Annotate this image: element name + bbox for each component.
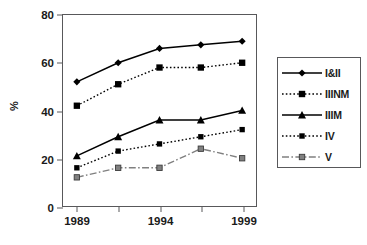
y-tick-label: 0	[15, 202, 63, 214]
legend-label: IIIM	[325, 109, 342, 121]
legend-label: I&II	[325, 67, 341, 79]
data-point-marker	[74, 165, 79, 170]
series-iv	[74, 127, 245, 171]
data-point-marker	[116, 148, 121, 153]
y-tick-mark	[57, 208, 63, 209]
legend-key-icon	[281, 150, 323, 164]
data-point-marker	[198, 64, 204, 70]
legend-key-icon	[281, 129, 323, 143]
x-tick-mark	[244, 206, 245, 212]
series-layer	[63, 15, 256, 206]
data-point-marker	[73, 152, 81, 159]
data-point-marker	[239, 38, 246, 45]
data-point-marker	[198, 134, 203, 139]
data-point-marker	[114, 133, 122, 140]
legend-label: V	[325, 151, 332, 163]
x-tick-mark	[202, 206, 203, 212]
series-v	[74, 146, 245, 180]
series-line	[77, 130, 242, 168]
data-point-marker	[74, 175, 79, 180]
line-chart: % 020406080 198919941999 I&IIIIINMIIIMIV…	[0, 0, 367, 245]
data-point-marker	[238, 107, 246, 114]
legend-key-icon	[281, 87, 323, 101]
data-point-marker	[156, 64, 162, 70]
y-tick-label: 20	[15, 154, 63, 166]
legend-item-iiinm[interactable]: IIINM	[278, 83, 360, 104]
plot-area: 020406080 198919941999	[62, 14, 257, 207]
data-point-marker	[239, 60, 245, 66]
y-tick-label: 60	[15, 57, 63, 69]
data-point-marker	[299, 133, 304, 138]
data-point-marker	[299, 90, 305, 96]
x-tick-label: 1994	[148, 215, 174, 227]
data-point-marker	[298, 69, 305, 76]
x-tick-label: 1989	[64, 215, 90, 227]
data-point-marker	[156, 45, 163, 52]
legend-key-icon	[281, 66, 323, 80]
x-tick-mark	[118, 206, 119, 212]
legend-item-iiim[interactable]: IIIM	[278, 104, 360, 125]
x-tick-label: 1999	[231, 215, 257, 227]
data-point-marker	[198, 146, 203, 151]
legend-label: IV	[325, 130, 335, 142]
series-i-ii	[73, 38, 245, 86]
data-point-marker	[115, 81, 121, 87]
data-point-marker	[299, 154, 304, 159]
data-point-marker	[115, 59, 122, 66]
x-tick-mark	[77, 206, 78, 212]
series-iiinm	[74, 60, 246, 109]
legend-item-v[interactable]: V	[278, 146, 360, 167]
data-point-marker	[239, 127, 244, 132]
series-line	[77, 149, 242, 178]
x-tick-mark	[160, 206, 161, 212]
data-point-marker	[239, 156, 244, 161]
legend-label: IIINM	[325, 88, 349, 100]
data-point-marker	[73, 78, 80, 85]
data-point-marker	[157, 141, 162, 146]
chart-legend: I&IIIIINMIIIMIVV	[277, 57, 361, 168]
data-point-marker	[157, 165, 162, 170]
y-tick-label: 80	[15, 9, 63, 21]
data-point-marker	[74, 103, 80, 109]
data-point-marker	[197, 41, 204, 48]
data-point-marker	[116, 165, 121, 170]
y-tick-label: 40	[15, 106, 63, 118]
legend-item-i-ii[interactable]: I&II	[278, 62, 360, 83]
legend-item-iv[interactable]: IV	[278, 125, 360, 146]
legend-key-icon	[281, 108, 323, 122]
